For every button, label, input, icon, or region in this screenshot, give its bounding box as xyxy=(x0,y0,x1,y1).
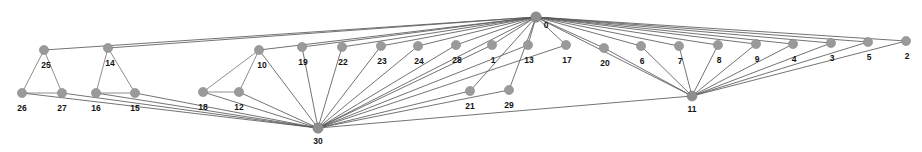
graph-edge xyxy=(536,17,868,42)
graph-canvas: 0301125142627161518121019222324281131720… xyxy=(0,0,922,152)
graph-node-20[interactable] xyxy=(599,43,608,52)
graph-node-label-13: 13 xyxy=(524,55,534,65)
graph-node-label-29: 29 xyxy=(504,100,514,110)
graph-node-15[interactable] xyxy=(130,88,139,97)
label-layer: 0301125142627161518121019222324281131720… xyxy=(17,20,909,146)
graph-node-11[interactable] xyxy=(687,91,697,101)
graph-node-label-23: 23 xyxy=(377,56,387,66)
graph-node-21[interactable] xyxy=(465,86,474,95)
graph-edge xyxy=(22,50,44,93)
graph-edge xyxy=(203,50,259,92)
graph-node-label-21: 21 xyxy=(465,101,475,111)
graph-node-label-9: 9 xyxy=(755,54,760,64)
graph-edge xyxy=(203,92,318,128)
graph-node-24[interactable] xyxy=(413,41,422,50)
graph-node-0[interactable] xyxy=(531,12,541,22)
graph-node-2[interactable] xyxy=(901,36,910,45)
graph-edge xyxy=(135,93,318,128)
graph-node-3[interactable] xyxy=(826,38,835,47)
graph-edge xyxy=(536,17,906,41)
graph-node-label-14: 14 xyxy=(105,58,115,68)
graph-node-label-11: 11 xyxy=(688,104,697,114)
graph-edge xyxy=(604,48,692,96)
graph-node-label-24: 24 xyxy=(414,56,424,66)
graph-node-9[interactable] xyxy=(751,39,760,48)
graph-node-label-0: 0 xyxy=(544,20,549,30)
graph-node-label-3: 3 xyxy=(830,53,835,63)
graph-node-label-6: 6 xyxy=(640,56,645,66)
graph-node-label-22: 22 xyxy=(338,57,348,67)
graph-node-label-7: 7 xyxy=(678,56,683,66)
graph-node-22[interactable] xyxy=(337,42,346,51)
graph-node-19[interactable] xyxy=(297,42,306,51)
graph-node-23[interactable] xyxy=(376,41,385,50)
graph-node-26[interactable] xyxy=(17,88,26,97)
graph-node-label-28: 28 xyxy=(452,55,462,65)
graph-node-14[interactable] xyxy=(103,43,112,52)
graph-edge xyxy=(108,48,135,93)
graph-node-4[interactable] xyxy=(788,39,797,48)
graph-node-13[interactable] xyxy=(523,40,532,49)
graph-node-label-19: 19 xyxy=(298,57,308,67)
graph-node-label-8: 8 xyxy=(717,55,722,65)
graph-node-label-15: 15 xyxy=(130,103,140,113)
graph-edge xyxy=(44,50,62,93)
graph-node-1[interactable] xyxy=(487,40,496,49)
graph-node-6[interactable] xyxy=(636,41,645,50)
graph-node-label-2: 2 xyxy=(905,51,910,61)
graph-node-12[interactable] xyxy=(234,87,243,96)
graph-node-label-4: 4 xyxy=(792,54,797,64)
graph-node-16[interactable] xyxy=(91,88,100,97)
graph-node-7[interactable] xyxy=(674,41,683,50)
graph-edge xyxy=(692,41,906,96)
graph-figure: 0301125142627161518121019222324281131720… xyxy=(0,0,922,152)
graph-node-25[interactable] xyxy=(39,45,48,54)
graph-node-label-20: 20 xyxy=(600,58,610,68)
graph-node-label-10: 10 xyxy=(257,60,267,70)
graph-edge xyxy=(692,42,868,96)
graph-node-label-12: 12 xyxy=(234,102,244,112)
graph-node-label-30: 30 xyxy=(313,136,323,146)
node-layer xyxy=(17,12,910,133)
graph-node-label-5: 5 xyxy=(867,52,872,62)
graph-edge xyxy=(692,43,831,96)
graph-edge xyxy=(679,46,692,96)
graph-node-label-25: 25 xyxy=(41,60,51,70)
graph-edge xyxy=(536,17,756,44)
graph-node-label-17: 17 xyxy=(562,55,572,65)
graph-node-29[interactable] xyxy=(504,85,513,94)
graph-edge xyxy=(239,50,259,92)
graph-node-label-27: 27 xyxy=(57,103,67,113)
graph-node-28[interactable] xyxy=(451,40,460,49)
edge-layer xyxy=(22,17,906,128)
graph-node-30[interactable] xyxy=(313,123,323,133)
graph-node-label-26: 26 xyxy=(17,103,27,113)
graph-node-18[interactable] xyxy=(198,87,207,96)
graph-edge xyxy=(641,46,692,96)
graph-node-label-16: 16 xyxy=(91,103,101,113)
graph-node-27[interactable] xyxy=(57,88,66,97)
graph-edge xyxy=(96,48,108,93)
graph-node-5[interactable] xyxy=(863,37,872,46)
graph-node-10[interactable] xyxy=(254,45,263,54)
graph-node-17[interactable] xyxy=(561,40,570,49)
graph-edge xyxy=(259,50,318,128)
graph-edge xyxy=(509,17,536,90)
graph-node-8[interactable] xyxy=(713,40,722,49)
graph-edge xyxy=(692,45,718,96)
graph-node-label-18: 18 xyxy=(198,102,208,112)
graph-node-label-1: 1 xyxy=(491,55,496,65)
